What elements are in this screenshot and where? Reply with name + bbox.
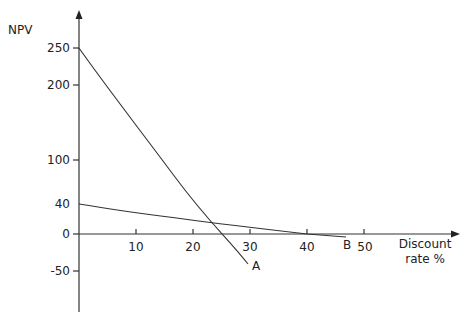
x-ticks bbox=[136, 229, 364, 234]
ytick-label-0: 0 bbox=[62, 227, 70, 241]
xtick-label-10: 10 bbox=[128, 240, 143, 254]
xtick-label-20: 20 bbox=[185, 240, 200, 254]
y-ticks bbox=[73, 48, 79, 271]
xtick-label-50: 50 bbox=[357, 240, 372, 254]
ytick-label-40: 40 bbox=[55, 197, 70, 211]
curve-b bbox=[79, 204, 346, 237]
ytick-label-minus50: -50 bbox=[50, 264, 70, 278]
xtick-label-40: 40 bbox=[299, 240, 314, 254]
xtick-label-30: 30 bbox=[242, 240, 257, 254]
curve-a bbox=[79, 48, 248, 264]
npv-chart: 250 200 100 40 0 -50 10 20 30 40 50 NPV … bbox=[0, 0, 466, 315]
y-axis-label: NPV bbox=[8, 23, 33, 37]
ytick-label-250: 250 bbox=[47, 41, 70, 55]
x-axis-label-line1: Discount bbox=[399, 237, 452, 251]
ytick-label-200: 200 bbox=[47, 78, 70, 92]
curve-b-label: B bbox=[343, 238, 351, 252]
curve-a-label: A bbox=[252, 259, 261, 273]
y-axis-arrow-icon bbox=[76, 10, 83, 19]
x-axis-arrow-icon bbox=[451, 231, 460, 238]
x-axis-label-line2: rate % bbox=[405, 252, 445, 266]
ytick-label-100: 100 bbox=[47, 153, 70, 167]
